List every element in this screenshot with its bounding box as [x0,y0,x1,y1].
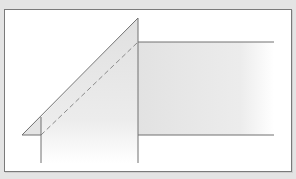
diagram-canvas [0,0,296,179]
shaded-rectangle [138,42,274,135]
shaded-band [41,18,138,163]
